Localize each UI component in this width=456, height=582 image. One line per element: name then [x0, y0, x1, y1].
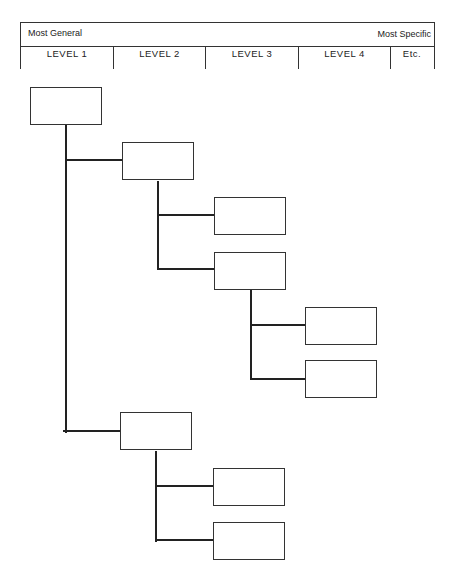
level-4-label: LEVEL 4 — [299, 47, 390, 69]
connector-level2b-trunk — [155, 451, 157, 542]
node-level-3 — [213, 522, 285, 560]
level-2-label: LEVEL 2 — [114, 47, 205, 69]
connector-level1-trunk — [65, 125, 67, 433]
node-level-3 — [214, 252, 286, 290]
node-level-2 — [122, 142, 194, 180]
most-general-label: Most General — [28, 28, 82, 38]
node-level-3 — [214, 197, 286, 235]
connector-level2-trunk — [157, 181, 159, 270]
connector-to-n5 — [250, 324, 305, 326]
level-1-label: LEVEL 1 — [21, 47, 113, 69]
node-level-1 — [30, 87, 102, 125]
connector-level3-trunk — [250, 290, 252, 380]
connector-to-n3 — [157, 214, 214, 216]
connector-to-n4 — [157, 268, 214, 270]
node-level-4 — [305, 307, 377, 345]
etc-label: Etc. — [391, 47, 433, 69]
generality-scale-row: Most General Most Specific — [21, 23, 434, 47]
connector-to-n6 — [250, 378, 305, 380]
connector-to-n8 — [155, 485, 213, 487]
connector-to-n9 — [155, 539, 213, 541]
node-level-4 — [305, 360, 377, 398]
connector-to-n2 — [65, 159, 122, 161]
level-3-label: LEVEL 3 — [206, 47, 298, 69]
level-header: Most General Most Specific LEVEL 1 LEVEL… — [20, 22, 435, 69]
node-level-3 — [213, 468, 285, 506]
node-level-2 — [120, 412, 192, 450]
most-specific-label: Most Specific — [377, 29, 431, 39]
connector-to-n7 — [63, 430, 120, 432]
